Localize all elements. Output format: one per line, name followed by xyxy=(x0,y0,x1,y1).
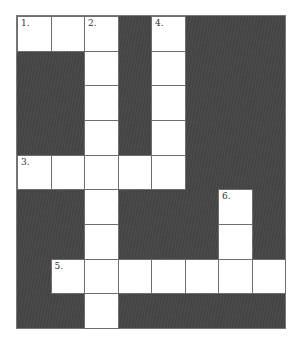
crossword-cell[interactable] xyxy=(218,259,253,295)
crossword-cell[interactable]: 4. xyxy=(151,16,186,52)
crossword-cell[interactable] xyxy=(218,224,253,260)
crossword-cell[interactable] xyxy=(84,224,119,260)
crossword-cell[interactable] xyxy=(185,259,220,295)
clue-number: 2. xyxy=(88,18,97,29)
crossword-cell[interactable] xyxy=(151,120,186,156)
crossword-cell[interactable] xyxy=(84,85,119,121)
clue-number: 4. xyxy=(155,18,164,29)
crossword-cell[interactable] xyxy=(51,16,86,52)
crossword-cell[interactable] xyxy=(84,155,119,191)
crossword-grid: 1.2.4.3.6.5. xyxy=(16,15,286,329)
crossword-cell[interactable] xyxy=(118,259,153,295)
crossword-cell[interactable] xyxy=(252,259,287,295)
clue-number: 3. xyxy=(21,157,30,168)
clue-number: 5. xyxy=(55,261,64,272)
crossword-cell[interactable]: 6. xyxy=(218,189,253,225)
crossword-cell[interactable]: 1. xyxy=(17,16,52,52)
crossword-cell[interactable] xyxy=(151,85,186,121)
crossword-cell[interactable] xyxy=(51,155,86,191)
crossword-cell[interactable] xyxy=(84,259,119,295)
crossword-cell[interactable]: 5. xyxy=(51,259,86,295)
crossword-cell[interactable] xyxy=(151,155,186,191)
crossword-cell[interactable] xyxy=(84,293,119,329)
crossword-cell[interactable]: 3. xyxy=(17,155,52,191)
clue-number: 1. xyxy=(21,18,30,29)
crossword-cell[interactable] xyxy=(118,155,153,191)
crossword-cell[interactable] xyxy=(84,120,119,156)
crossword-cell[interactable] xyxy=(151,259,186,295)
crossword-cell[interactable] xyxy=(84,51,119,87)
crossword-cell[interactable] xyxy=(84,189,119,225)
clue-number: 6. xyxy=(222,191,231,202)
crossword-cell[interactable]: 2. xyxy=(84,16,119,52)
crossword-cell[interactable] xyxy=(151,51,186,87)
